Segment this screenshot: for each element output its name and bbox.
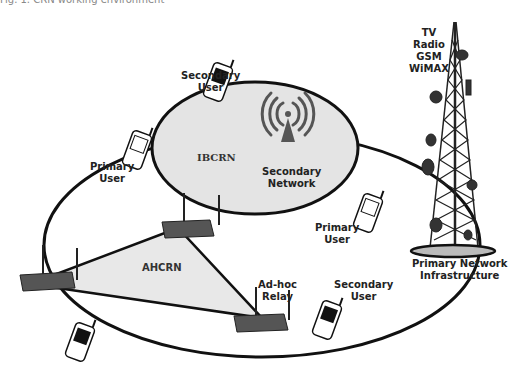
primary-infrastructure-label: Primary Network Infrastructure — [412, 258, 507, 282]
label-line: Relay — [258, 291, 297, 303]
label-line: User — [181, 82, 240, 94]
secondary-user-top-label: Secondary User — [181, 70, 240, 94]
ibcrn-area — [152, 82, 358, 214]
secondary-network-label-line1: Secondary — [262, 166, 321, 178]
label-line: Ad-hoc — [258, 279, 297, 291]
ibcrn-label: IBCRN — [197, 152, 236, 164]
label-line: User — [334, 291, 393, 303]
ahcrn-label: AHCRN — [142, 262, 182, 274]
label-line: TV — [409, 27, 449, 39]
label-line: User — [90, 173, 134, 185]
label-line: Primary — [315, 222, 359, 234]
label-line: Radio — [409, 39, 449, 51]
secondary-user-bottom-label: Secondary User — [334, 279, 393, 303]
label-line: Primary — [90, 161, 134, 173]
label-line: Secondary — [181, 70, 240, 82]
tower-base — [411, 245, 495, 257]
phone-bottom-left-icon — [64, 314, 98, 362]
secondary-network-label: Secondary Network — [262, 166, 321, 190]
primary-user-left-label: Primary User — [90, 161, 134, 185]
primary-user-right-label: Primary User — [315, 222, 359, 246]
label-line: Secondary — [334, 279, 393, 291]
adhoc-relay-label: Ad-hoc Relay — [258, 279, 297, 303]
label-line: GSM — [409, 51, 449, 63]
label-line: Infrastructure — [412, 270, 507, 282]
tower-services-label: TV Radio GSM WiMAX — [409, 27, 449, 75]
label-line: User — [315, 234, 359, 246]
secondary-network-label-line2: Network — [262, 178, 321, 190]
label-line: WiMAX — [409, 63, 449, 75]
label-line: Primary Network — [412, 258, 507, 270]
